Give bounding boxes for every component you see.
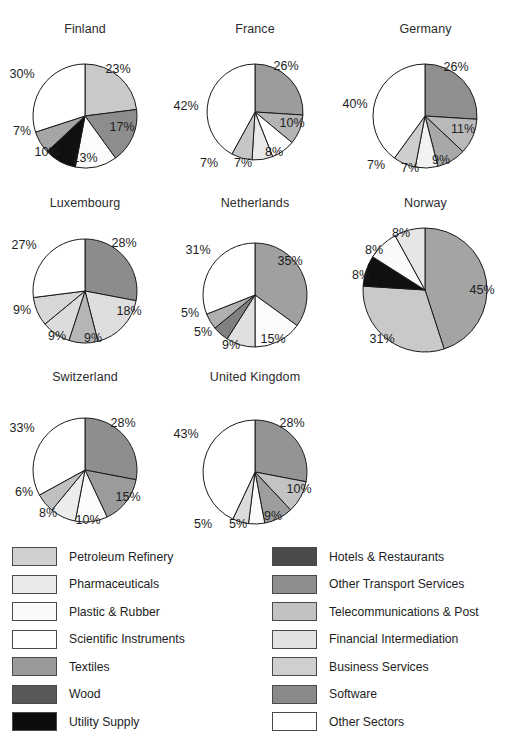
pie-slice-percent-label: 27% [11, 238, 36, 252]
legend-item: Software [272, 681, 479, 709]
pie-slice-percent-label: 15% [115, 490, 140, 504]
pie-slice-percent-label: 17% [109, 120, 134, 134]
legend-swatch [12, 685, 57, 704]
legend-item: Petroleum Refinery [12, 543, 185, 571]
legend-swatch [12, 575, 57, 594]
pie-slice-percent-label: 40% [342, 97, 367, 111]
pie-slice-percent-label: 9% [432, 153, 450, 167]
pie-slice-percent-label: 8% [39, 506, 57, 520]
legend-item: Scientific Instruments [12, 626, 185, 654]
legend-label: Other Transport Services [329, 577, 464, 591]
pie-slice-percent-label: 9% [264, 509, 282, 523]
legend-swatch [272, 712, 317, 731]
pie-slice-percent-label: 8% [265, 145, 283, 159]
legend-column-right: Hotels & RestaurantsOther Transport Serv… [272, 543, 479, 736]
legend-swatch [12, 630, 57, 649]
pie-slice-percent-label: 5% [229, 517, 247, 531]
legend-swatch [272, 602, 317, 621]
pie-slice-percent-label: 10% [279, 116, 304, 130]
legend-label: Hotels & Restaurants [329, 550, 444, 564]
pie-slice-percent-label: 15% [260, 332, 285, 346]
pie-slice-percent-label: 5% [194, 517, 212, 531]
pie-slice-percent-label: 6% [15, 485, 33, 499]
legend-item: Other Transport Services [272, 571, 479, 599]
pie-slice-percent-label: 9% [84, 331, 102, 345]
legend-swatch [272, 575, 317, 594]
pie-slice-percent-label: 10% [75, 513, 100, 527]
legend-label: Wood [69, 687, 101, 701]
pie-slice-percent-label: 31% [369, 332, 394, 346]
legend-swatch [272, 657, 317, 676]
pie-slice-percent-label: 42% [173, 99, 198, 113]
pie-slice-percent-label: 5% [194, 325, 212, 339]
pie-graphic [0, 22, 170, 192]
legend-item: Telecommunications & Post [272, 598, 479, 626]
legend-swatch [272, 685, 317, 704]
legend-item: Utility Supply [12, 708, 185, 736]
legend-item: Hotels & Restaurants [272, 543, 479, 571]
pie-slice-percent-label: 28% [110, 416, 135, 430]
pie-slice-percent-label: 9% [13, 303, 31, 317]
legend-swatch [272, 547, 317, 566]
legend-label: Financial Intermediation [329, 632, 458, 646]
pie-slice-percent-label: 28% [111, 236, 136, 250]
legend-label: Other Sectors [329, 715, 404, 729]
pie-slice-percent-label: 26% [443, 60, 468, 74]
pie-slice-percent-label: 18% [116, 304, 141, 318]
pie-slice-percent-label: 8% [365, 243, 383, 257]
pie-slice-percent-label: 9% [48, 329, 66, 343]
legend-item: Other Sectors [272, 708, 479, 736]
pie-slice-percent-label: 35% [277, 254, 302, 268]
chart-legend: Petroleum RefineryPharmaceuticalsPlastic… [0, 543, 511, 743]
pie-slice-percent-label: 7% [401, 161, 419, 175]
pie-panel-norway: Norway [340, 196, 511, 368]
legend-swatch [12, 657, 57, 676]
pie-slice-percent-label: 9% [222, 338, 240, 352]
pie-slice-percent-label: 10% [286, 482, 311, 496]
pie-graphic [340, 196, 511, 368]
legend-label: Software [329, 687, 377, 701]
legend-item: Pharmaceuticals [12, 571, 185, 599]
pie-slice-percent-label: 30% [9, 67, 34, 81]
pie-panel-finland: Finland [0, 22, 170, 192]
pie-slice-percent-label: 11% [451, 122, 475, 136]
legend-label: Plastic & Rubber [69, 605, 160, 619]
legend-label: Scientific Instruments [69, 632, 185, 646]
legend-item: Plastic & Rubber [12, 598, 185, 626]
legend-swatch [12, 547, 57, 566]
legend-column-left: Petroleum RefineryPharmaceuticalsPlastic… [12, 543, 185, 736]
pie-slice-percent-label: 7% [367, 158, 385, 172]
pie-slice-percent-label: 31% [185, 243, 210, 257]
pie-slice-percent-label: 43% [173, 427, 198, 441]
legend-item: Wood [12, 681, 185, 709]
legend-label: Utility Supply [69, 715, 139, 729]
pie-slice-percent-label: 13% [72, 151, 97, 165]
legend-label: Pharmaceuticals [69, 577, 159, 591]
pie-slice-percent-label: 10% [34, 145, 59, 159]
pie-slice [33, 239, 85, 298]
pie-slice-percent-label: 7% [234, 156, 252, 170]
pie-slice-percent-label: 45% [469, 283, 494, 297]
pie-panel-netherlands: Netherlands [170, 196, 340, 368]
legend-item: Financial Intermediation [272, 626, 479, 654]
legend-label: Telecommunications & Post [329, 605, 479, 619]
legend-item: Textiles [12, 653, 185, 681]
legend-label: Business Services [329, 660, 429, 674]
pie-slice-percent-label: 8% [352, 268, 370, 282]
pie-slice-percent-label: 8% [392, 226, 410, 240]
pie-slice-percent-label: 7% [13, 124, 31, 138]
legend-swatch [12, 712, 57, 731]
legend-item: Business Services [272, 653, 479, 681]
pie-graphic [170, 196, 340, 368]
legend-label: Petroleum Refinery [69, 550, 173, 564]
pie-slice-percent-label: 7% [200, 156, 218, 170]
pie-slice-percent-label: 28% [279, 416, 304, 430]
legend-swatch [12, 602, 57, 621]
legend-swatch [272, 630, 317, 649]
pie-slice-percent-label: 26% [273, 59, 298, 73]
pie-slice-percent-label: 23% [105, 62, 130, 76]
legend-label: Textiles [69, 660, 110, 674]
pie-slice-percent-label: 5% [181, 306, 199, 320]
pie-slice-percent-label: 33% [9, 421, 34, 435]
